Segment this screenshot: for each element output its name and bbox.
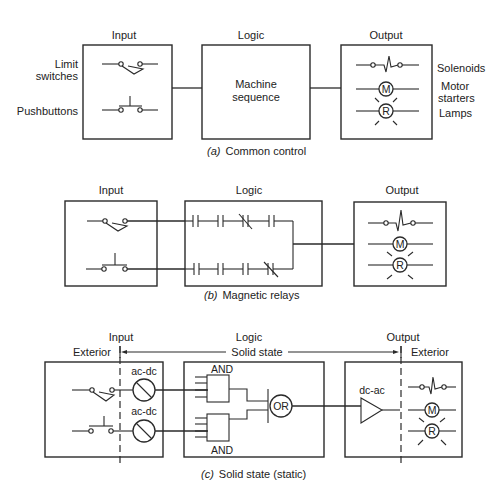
panel-c-caption: (c)Solid state (static): [201, 468, 306, 480]
solenoids-label: Solenoids: [437, 62, 486, 74]
or-gate-icon: OR: [270, 395, 292, 417]
pushbutton-icon: [86, 253, 127, 271]
panel-c-input-header: Input: [109, 331, 133, 343]
panel-a-output-header: Output: [369, 29, 402, 41]
panel-a-common-control: Input Logic Output Limit switches Pushbu…: [17, 29, 486, 157]
svg-text:R: R: [428, 425, 436, 437]
panel-c-solid-state: Input Logic Output Exterior Exterior Sol…: [45, 331, 462, 480]
machine-sequence-line-2: sequence: [232, 91, 280, 103]
limit-switch-icon: [102, 62, 158, 74]
pushbutton-icon: [102, 96, 158, 112]
ac-dc-label-top: ac-dc: [131, 365, 157, 377]
panel-b-logic-header: Logic: [236, 184, 263, 196]
panel-a-caption: (a)Common control: [207, 145, 306, 157]
panel-a-input-header: Input: [112, 29, 136, 41]
solid-state-label: Solid state: [231, 346, 282, 358]
svg-text:M: M: [396, 238, 405, 250]
and-gate-bottom-icon: [195, 414, 229, 441]
panel-a-input-box: [83, 45, 172, 139]
dc-ac-label: dc-ac: [359, 384, 385, 396]
limit-switch-icon: [87, 219, 127, 231]
motor-starters-label-1: Motor: [441, 80, 469, 92]
lamp-icon: R: [408, 418, 456, 445]
control-systems-figure: Input Logic Output Limit switches Pushbu…: [0, 0, 496, 489]
pushbuttons-label: Pushbuttons: [17, 105, 79, 117]
pushbutton-icon: [72, 416, 133, 433]
lamp-icon: R: [356, 98, 419, 125]
svg-text:M: M: [382, 83, 391, 95]
ac-dc-label-bottom: ac-dc: [131, 405, 157, 417]
svg-text:R: R: [396, 259, 404, 271]
gate-interconnect: [229, 389, 268, 423]
panel-a-logic-header: Logic: [238, 29, 265, 41]
motor-starter-icon: M: [408, 403, 456, 417]
panel-b-input-header: Input: [99, 184, 123, 196]
panel-c-output-header: Output: [386, 331, 419, 343]
panel-b-magnetic-relays: Input Logic Output: [65, 184, 446, 301]
solenoid-icon: [408, 377, 456, 394]
lamp-icon: R: [368, 252, 433, 279]
panel-b-input-box: [65, 201, 157, 286]
relay-rung-2: [185, 262, 293, 277]
solenoid-icon: [356, 56, 419, 72]
relay-rung-1: [185, 214, 293, 229]
and-gate-top-label: AND: [211, 363, 234, 375]
motor-starter-icon: M: [368, 237, 433, 251]
solenoid-icon: [368, 210, 433, 231]
limit-switches-label-1: Limit: [55, 58, 78, 70]
limit-switches-label-2: switches: [36, 70, 79, 82]
motor-starters-label-2: starters: [438, 92, 475, 104]
svg-text:R: R: [382, 105, 390, 117]
lamps-label: Lamps: [439, 107, 473, 119]
solid-state-span-arrow: Solid state: [120, 346, 401, 358]
ac-dc-converter-icon: [133, 420, 155, 442]
and-gate-bottom-label: AND: [211, 444, 234, 456]
machine-sequence-line-1: Machine: [235, 78, 277, 90]
panel-b-output-header: Output: [385, 184, 418, 196]
motor-starter-icon: M: [356, 82, 419, 96]
exterior-left-label: Exterior: [73, 346, 111, 358]
svg-text:M: M: [428, 404, 437, 416]
ac-dc-converter-icon: [133, 379, 155, 401]
dc-ac-amplifier-icon: [361, 398, 400, 423]
exterior-right-label: Exterior: [411, 346, 449, 358]
panel-c-logic-header: Logic: [236, 331, 263, 343]
and-gate-top-icon: [195, 375, 229, 402]
panel-b-caption: (b)Magnetic relays: [204, 289, 300, 301]
svg-text:OR: OR: [273, 400, 289, 412]
limit-switch-icon: [72, 388, 133, 401]
